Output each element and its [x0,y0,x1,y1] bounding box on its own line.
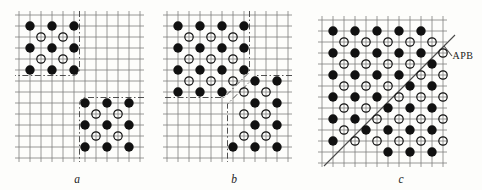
panel-c-lattice [318,16,455,167]
atom-filled [239,21,248,30]
atom-filled [350,48,359,57]
atom-filled [173,87,182,96]
atom-filled [272,142,281,151]
atom-filled [328,26,337,35]
atom-filled [47,43,56,52]
panel-label-a: a [74,173,80,185]
atom-filled [427,125,436,134]
atom-filled [427,81,436,90]
atom-filled [195,65,204,74]
atom-filled [173,21,182,30]
atom-filled [80,98,89,107]
atom-filled [25,43,34,52]
atom-filled [383,147,392,156]
panel-b-lattice [163,11,292,162]
atom-filled [69,65,78,74]
antiphase-domain-figure: a b c APB [0,0,482,190]
domain1-boundary [15,11,80,76]
panel-a-lattice [15,11,144,162]
atom-filled [239,43,248,52]
atom-filled [361,125,370,134]
atom-filled [427,147,436,156]
atom-filled [405,125,414,134]
atom-filled [394,26,403,35]
atom-filled [173,65,182,74]
atom-filled [405,147,414,156]
atom-filled [25,21,34,30]
atom-filled [250,76,259,85]
atom-filled [383,125,392,134]
atom-filled [47,65,56,74]
atom-filled [372,26,381,35]
atom-filled [69,43,78,52]
atom-filled [80,120,89,129]
atom-filled [217,21,226,30]
atom-filled [272,76,281,85]
panel-label-c: c [398,173,403,185]
atom-filled [394,48,403,57]
atom-filled [69,21,78,30]
atom-filled [102,98,111,107]
atom-filled [328,48,337,57]
domain2-boundary [80,98,145,163]
atom-filled [328,70,337,79]
atom-filled [427,103,436,112]
atom-filled [102,120,111,129]
atom-filled [383,103,392,112]
atom-filled [80,142,89,151]
panel-label-b: b [231,173,237,185]
atom-filled [328,136,337,145]
atom-filled [124,142,133,151]
atom-filled [272,120,281,129]
atom-filled [394,70,403,79]
atom-filled [239,65,248,74]
atom-filled [217,43,226,52]
figure-canvas: a b c APB [0,0,482,190]
atom-filled [372,48,381,57]
atom-filled [350,70,359,79]
atom-filled [416,26,425,35]
atom-filled [173,43,182,52]
atom-filled [328,114,337,123]
atom-filled [228,142,237,151]
atom-filled [372,92,381,101]
atom-filled [250,142,259,151]
apb-pointer [444,46,452,56]
atom-filled [217,65,226,74]
atom-filled [350,92,359,101]
atom-filled [372,70,381,79]
atom-filled [250,120,259,129]
atom-filled [25,65,34,74]
atom-filled [195,21,204,30]
apb-annotation: APB [453,50,474,61]
atom-filled [217,87,226,96]
atom-filled [102,142,111,151]
atom-filled [416,48,425,57]
atom-filled [195,87,204,96]
atom-filled [124,120,133,129]
atom-filled [350,114,359,123]
atom-filled [250,98,259,107]
atom-filled [328,92,337,101]
atom-filled [47,21,56,30]
atom-filled [427,59,436,68]
atom-filled [350,26,359,35]
atom-filled [124,98,133,107]
atom-filled [405,103,414,112]
atom-filled [272,98,281,107]
atom-filled [405,81,414,90]
atom-filled [195,43,204,52]
